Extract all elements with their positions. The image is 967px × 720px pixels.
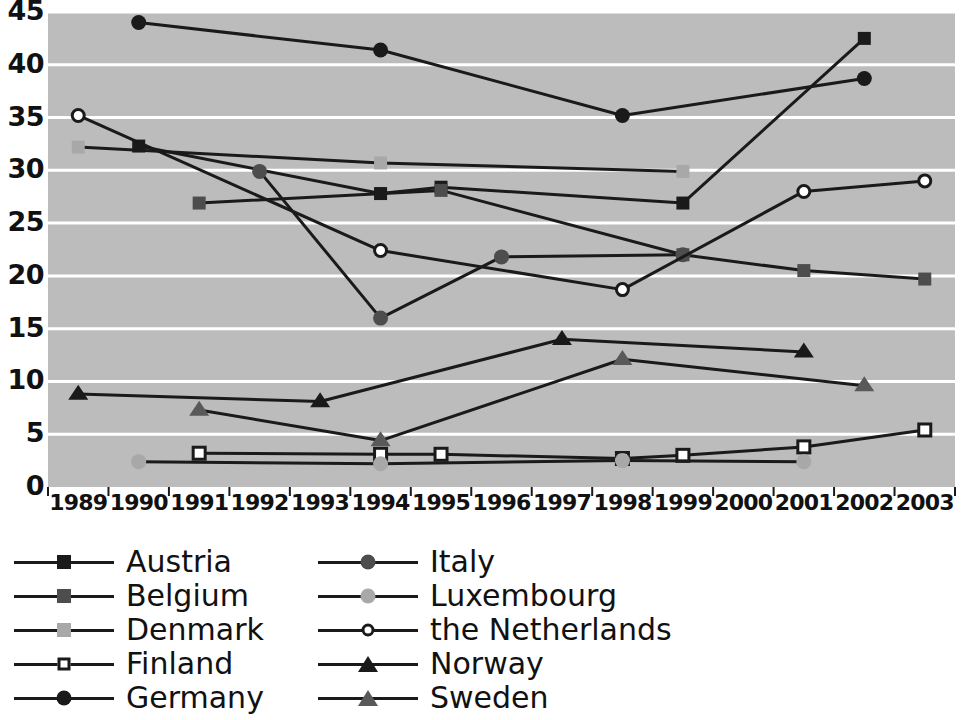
data-point (131, 15, 146, 30)
data-point (615, 453, 630, 468)
data-point (919, 175, 931, 187)
x-axis-tick-label: 1999 (653, 492, 713, 514)
y-axis-tick-label: 20 (2, 261, 44, 288)
chart-legend: AustriaBelgiumDenmarkFinlandGermany Ital… (0, 545, 967, 720)
data-point (72, 109, 84, 121)
data-point (858, 32, 871, 45)
data-point (796, 454, 811, 469)
series-germany (131, 15, 872, 123)
data-point (193, 447, 205, 459)
x-axis-tick-label: 1995 (411, 492, 471, 514)
x-axis-tick-label: 2000 (713, 492, 773, 514)
series-line (78, 339, 804, 401)
data-point (615, 108, 630, 123)
circle-marker-icon (57, 691, 72, 706)
x-axis-tick-label: 2002 (834, 492, 894, 514)
y-axis-tick-label: 0 (2, 472, 44, 499)
legend-item-denmark[interactable]: Denmark (14, 613, 344, 647)
series-line (139, 38, 865, 203)
data-point (798, 185, 810, 197)
chart-page: 051015202530354045 198919901991199219931… (0, 0, 967, 720)
x-axis-tick-label: 1990 (108, 492, 168, 514)
legend-swatch (318, 654, 418, 674)
data-point (919, 424, 931, 436)
data-point (131, 454, 146, 469)
legend-column-left: AustriaBelgiumDenmarkFinlandGermany (14, 545, 344, 715)
data-point (435, 448, 447, 460)
data-point (798, 441, 810, 453)
legend-label: the Netherlands (418, 615, 672, 645)
line-chart: 051015202530354045 198919901991199219931… (0, 0, 967, 535)
x-axis-tick-label: 1998 (592, 492, 652, 514)
data-point (494, 249, 509, 264)
series-belgium (193, 184, 932, 286)
legend-swatch (14, 586, 114, 606)
data-point (373, 456, 388, 471)
open-circle-marker-icon (362, 624, 375, 637)
open-square-marker-icon (58, 658, 71, 671)
legend-swatch (14, 620, 114, 640)
legend-label: Italy (418, 547, 495, 577)
plot-canvas (0, 0, 967, 535)
x-axis-tick-label: 1996 (471, 492, 531, 514)
x-axis-tick-label: 1992 (229, 492, 289, 514)
data-point (918, 273, 931, 286)
legend-item-italy[interactable]: Italy (318, 545, 648, 579)
legend-item-luxembourg[interactable]: Luxembourg (318, 579, 648, 613)
x-axis-tick-label: 2001 (774, 492, 834, 514)
y-axis-tick-label: 15 (2, 314, 44, 341)
legend-column-right: ItalyLuxembourgthe NetherlandsNorwaySwed… (318, 545, 648, 715)
legend-label: Luxembourg (418, 581, 617, 611)
legend-item-norway[interactable]: Norway (318, 647, 648, 681)
data-point (616, 284, 628, 296)
y-axis-tick-label: 45 (2, 0, 44, 24)
y-axis-tick-label: 10 (2, 366, 44, 393)
data-point (72, 141, 85, 154)
legend-label: Norway (418, 649, 544, 679)
x-axis-tick-label: 1997 (532, 492, 592, 514)
legend-item-finland[interactable]: Finland (14, 647, 344, 681)
x-axis-tick-label: 1994 (350, 492, 410, 514)
legend-item-sweden[interactable]: Sweden (318, 681, 648, 715)
legend-label: Austria (114, 547, 232, 577)
series-sweden (189, 350, 874, 446)
data-point (676, 197, 689, 210)
series-line (139, 23, 865, 116)
x-axis-tick-label: 2003 (895, 492, 955, 514)
data-point (857, 71, 872, 86)
data-point (373, 43, 388, 58)
series-finland (193, 424, 931, 465)
data-point (68, 385, 88, 400)
legend-swatch (14, 654, 114, 674)
legend-item-germany[interactable]: Germany (14, 681, 344, 715)
legend-item-austria[interactable]: Austria (14, 545, 344, 579)
y-axis-tick-label: 25 (2, 208, 44, 235)
legend-swatch (318, 586, 418, 606)
x-axis-tick-label: 1989 (48, 492, 108, 514)
x-axis: 1989199019911992199319941995199619971998… (48, 492, 955, 532)
data-point (375, 245, 387, 257)
legend-label: Finland (114, 649, 233, 679)
square-marker-icon (57, 589, 71, 603)
data-point (193, 197, 206, 210)
circle-marker-icon (361, 589, 376, 604)
legend-swatch (318, 688, 418, 708)
data-point (252, 164, 267, 179)
data-point (552, 330, 572, 345)
data-point (373, 311, 388, 326)
square-marker-icon (57, 623, 71, 637)
series-line (139, 461, 804, 464)
square-marker-icon (57, 555, 71, 569)
legend-label: Belgium (114, 581, 249, 611)
triangle-marker-icon (358, 690, 378, 706)
data-point (374, 156, 387, 169)
legend-item-the-netherlands[interactable]: the Netherlands (318, 613, 648, 647)
triangle-marker-icon (358, 656, 378, 672)
circle-marker-icon (361, 555, 376, 570)
legend-item-belgium[interactable]: Belgium (14, 579, 344, 613)
series-line (199, 190, 925, 279)
x-axis-tick-label: 1993 (290, 492, 350, 514)
legend-label: Sweden (418, 683, 549, 713)
y-axis-tick-label: 30 (2, 155, 44, 182)
data-point (676, 165, 689, 178)
